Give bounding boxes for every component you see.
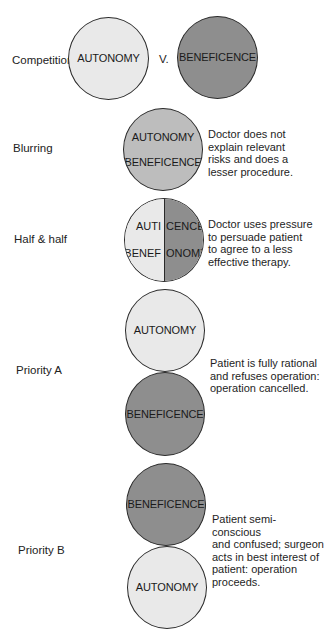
split-circle: AUTI BENEF CENCE ONOMY: [124, 198, 204, 282]
circle-label: BENEFICENCE: [178, 51, 257, 63]
row-label-blurring: Blurring: [13, 141, 53, 155]
circle-label: AUTONOMY: [128, 581, 206, 593]
row-label-competition: Competition: [12, 53, 73, 67]
beneficence-circle-top: BENEFICENCE: [126, 463, 206, 546]
circle-label: AUTONOMY: [69, 52, 148, 64]
versus-label: V.: [159, 53, 169, 65]
left-top-text: AUTI: [136, 220, 161, 232]
autonomy-circle-bottom: AUTONOMY: [127, 546, 207, 629]
autonomy-circle: AUTONOMY: [68, 17, 149, 100]
circle-label: AUTONOMY: [126, 324, 204, 336]
right-half-dark: [164, 199, 203, 281]
blurred-circle: AUTONOMY BENEFICENCE: [123, 108, 203, 191]
beneficence-circle-bottom: BENEFICENCE: [125, 372, 205, 456]
beneficence-circle: BENEFICENCE: [177, 16, 258, 99]
circle-label-beneficence: BENEFICENCE: [124, 156, 202, 168]
description-priority-b: Patient semi-conscious and confused; sur…: [212, 513, 325, 589]
circle-label: BENEFICENCE: [126, 408, 204, 420]
right-top-text: CENCE: [166, 220, 204, 232]
description-priority-a: Patient is fully rational and refuses op…: [210, 357, 319, 395]
description-blurring: Doctor does not explain relevant risks a…: [208, 128, 293, 178]
row-label-priority-a: Priority A: [16, 363, 62, 377]
left-bottom-text: BENEF: [124, 247, 161, 259]
circle-label-autonomy: AUTONOMY: [124, 131, 202, 143]
right-bottom-text: ONOMY: [166, 247, 204, 259]
circle-label: BENEFICENCE: [127, 498, 205, 510]
description-half-and-half: Doctor uses pressure to persuade patient…: [208, 218, 313, 268]
left-half-light: [125, 199, 164, 281]
autonomy-circle-top: AUTONOMY: [125, 289, 205, 372]
row-label-half-and-half: Half & half: [14, 232, 67, 246]
row-label-priority-b: Priority B: [18, 543, 65, 557]
